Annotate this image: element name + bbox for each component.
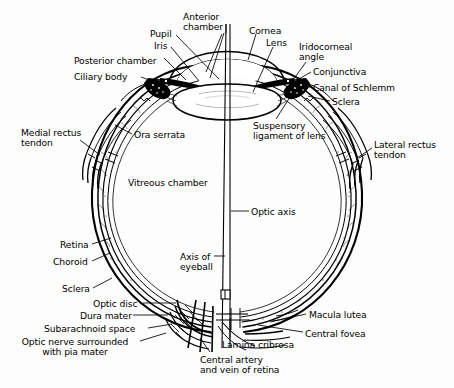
label-sclera-top-right: Sclera: [332, 97, 360, 107]
label-posterior-chamber: Posterior chamber: [74, 56, 157, 66]
label-axis-of-eyeball: Axis of eyeball: [180, 252, 213, 273]
lens-group: [173, 84, 281, 120]
label-anterior-chamber: Anterior chamber: [183, 12, 223, 33]
label-central-artery-vein: Central artery and vein of retina: [200, 355, 279, 376]
eye-anatomy-figure: Anterior chamber Pupil Iris Cornea Lens …: [0, 0, 454, 388]
leader-macula-lutea: [270, 314, 306, 322]
label-choroid: Choroid: [53, 257, 88, 267]
leader-medial-rectus: [80, 140, 100, 155]
anterior-chamber-region: [176, 59, 278, 86]
label-subarachnoid-space: Subarachnoid space: [44, 324, 135, 334]
label-ora-serrata: Ora serrata: [134, 130, 185, 140]
label-macula-lutea: Macula lutea: [309, 310, 367, 320]
label-lens: Lens: [266, 38, 287, 48]
leader-iridocorneal-angle: [293, 62, 306, 80]
leader-sclera-lower-left: [93, 278, 112, 288]
label-retina: Retina: [60, 240, 89, 250]
label-canal-of-schlemm: Canal of Schlemm: [313, 83, 395, 93]
label-iris: Iris: [154, 41, 167, 51]
vitreous-boundary-line: [113, 86, 214, 312]
label-central-fovea: Central fovea: [305, 329, 366, 339]
label-cornea: Cornea: [249, 26, 281, 36]
canal-of-schlemm-left: [164, 79, 167, 82]
label-optic-disc: Optic disc: [93, 299, 137, 309]
canal-of-schlemm-right: [286, 79, 289, 82]
label-vitreous-chamber: Vitreous chamber: [128, 178, 208, 188]
label-medial-rectus-tendon: Medial rectus tendon: [21, 128, 81, 149]
label-ciliary-body: Ciliary body: [74, 72, 127, 82]
label-lamina-cribrosa: Lamina cribrosa: [222, 340, 294, 350]
label-suspensory-ligament: Suspensory ligament of lens: [253, 121, 326, 142]
label-optic-nerve-pia-mater: Optic nerve surrounded with pia mater: [5, 337, 145, 358]
label-conjunctiva: Conjunctiva: [313, 67, 366, 77]
label-iridocorneal-angle: Iridocorneal angle: [299, 42, 352, 63]
label-pupil: Pupil: [150, 29, 172, 39]
leader-subarachnoid: [148, 324, 172, 328]
label-lateral-rectus-tendon: Lateral rectus tendon: [374, 140, 436, 161]
lens-outline: [173, 84, 281, 120]
label-dura-mater: Dura mater: [80, 311, 132, 321]
label-sclera-lower-left: Sclera: [62, 284, 90, 294]
label-optic-axis: Optic axis: [251, 207, 296, 217]
